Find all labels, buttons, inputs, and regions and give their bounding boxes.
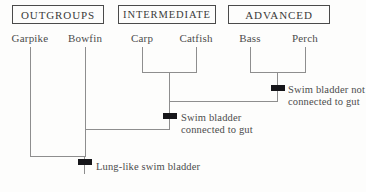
taxon-label-carp: Carp: [112, 33, 172, 44]
cladogram-figure: OUTGROUPS INTERMEDIATE ADVANCED Garpike …: [0, 0, 366, 192]
trait-line-2: connected to gut: [181, 124, 253, 136]
category-box-advanced: ADVANCED: [228, 5, 330, 24]
tick-lung-like-swim-bladder: [78, 159, 92, 165]
taxon-label-garpike: Garpike: [0, 33, 60, 44]
category-box-intermediate: INTERMEDIATE: [118, 5, 216, 24]
trait-label-swim-bladder-connected: Swim bladder connected to gut: [181, 112, 253, 137]
trait-line-1: Swim bladder: [181, 112, 253, 124]
category-box-outgroups: OUTGROUPS: [12, 5, 104, 24]
tick-swim-bladder-connected: [163, 113, 177, 119]
branch-bowfin: [85, 47, 86, 129]
trait-label-swim-bladder-not-connected: Swim bladder not connected to gut: [288, 84, 365, 109]
trait-line-2: connected to gut: [288, 96, 365, 108]
category-label-intermediate: INTERMEDIATE: [119, 10, 215, 21]
taxon-label-bowfin: Bowfin: [55, 33, 115, 44]
root-crossbar: [30, 156, 86, 157]
branch-catfish: [196, 47, 197, 73]
node-crossbar-teleost: [169, 101, 278, 102]
node-crossbar-bass-perch: [250, 72, 306, 73]
node-crossbar-bowfin-clade: [85, 129, 170, 130]
trait-line-1: Swim bladder not: [288, 84, 365, 96]
taxon-label-catfish: Catfish: [166, 33, 226, 44]
category-label-outgroups: OUTGROUPS: [13, 10, 103, 21]
category-label-advanced: ADVANCED: [229, 10, 329, 21]
trait-label-lung-like-swim-bladder: Lung-like swim bladder: [96, 161, 200, 173]
node-stem-bowfin-clade: [85, 129, 86, 156]
trait-line-1: Lung-like swim bladder: [96, 161, 200, 173]
tick-swim-bladder-not-connected: [271, 85, 285, 91]
taxon-label-bass: Bass: [220, 33, 280, 44]
node-stem-carp-catfish: [169, 72, 170, 101]
taxon-label-perch: Perch: [275, 33, 335, 44]
branch-bass: [250, 47, 251, 73]
branch-carp: [142, 47, 143, 73]
branch-garpike: [30, 47, 31, 156]
branch-perch: [305, 47, 306, 73]
